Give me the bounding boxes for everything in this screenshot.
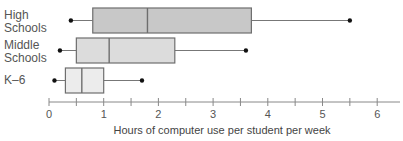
max-point: [244, 48, 248, 52]
box-1: [58, 38, 248, 63]
box-0: [69, 8, 352, 33]
max-point: [140, 78, 144, 82]
tick-label: 5: [319, 108, 325, 120]
tick-label: 6: [374, 108, 380, 120]
boxes-group: [52, 8, 352, 93]
box-plot: 0123456 Hours of computer use per studen…: [0, 0, 403, 141]
tick-label: 2: [155, 108, 161, 120]
iqr-box: [65, 68, 103, 93]
box-2: [52, 68, 144, 93]
tick-label: 1: [101, 108, 107, 120]
min-point: [69, 18, 73, 22]
min-point: [58, 48, 62, 52]
tick-label: 4: [265, 108, 271, 120]
x-axis: 0123456: [46, 98, 400, 120]
tick-label: 0: [46, 108, 52, 120]
max-point: [348, 18, 352, 22]
min-point: [52, 78, 56, 82]
iqr-box: [76, 38, 174, 63]
iqr-box: [93, 8, 252, 33]
x-axis-label: Hours of computer use per student per we…: [113, 124, 331, 136]
tick-label: 3: [210, 108, 216, 120]
